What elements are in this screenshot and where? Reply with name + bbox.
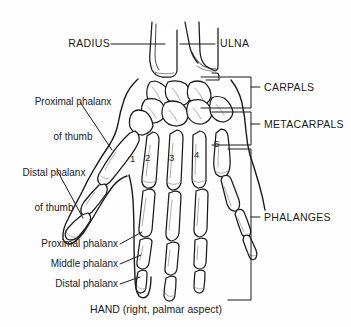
label-metacarpal-5: 5 (214, 138, 219, 149)
label-distal-phalanx-thumb: Distal phalanx of thumb (2, 143, 106, 237)
finger-4-phalanges (194, 189, 208, 293)
label-phalanges: PHALANGES (264, 211, 350, 223)
metacarpal-5 (214, 129, 230, 177)
label-metacarpals: METACARPALS (264, 118, 350, 130)
label-metacarpal-1: 1 (130, 153, 135, 164)
label-metacarpal-3: 3 (169, 152, 174, 163)
label-proximal-phalanx-thumb-line2: of thumb (18, 131, 128, 143)
figure-caption: HAND (right, palmar aspect) (46, 303, 266, 315)
label-ulna: ULNA (220, 37, 280, 49)
label-distal-phalanx-thumb-line1: Distal phalanx (2, 167, 106, 179)
label-distal-phalanx-thumb-line2: of thumb (2, 202, 106, 214)
ulna-bone (185, 22, 219, 80)
label-distal-phalanx: Distal phalanx (20, 278, 118, 290)
finger-3-phalanges (164, 191, 181, 301)
figure-root: RADIUS ULNA Proximal phalanx of thumb Di… (0, 0, 351, 327)
leader-proximal-phalanx (120, 232, 142, 244)
label-carpals: CARPALS (264, 81, 350, 93)
radius-bone (150, 22, 177, 77)
label-proximal-phalanx-thumb-line1: Proximal phalanx (18, 96, 128, 108)
label-radius: RADIUS (44, 37, 110, 49)
label-metacarpal-4: 4 (194, 149, 199, 160)
label-metacarpal-2: 2 (145, 152, 150, 163)
label-proximal-phalanx: Proximal phalanx (20, 238, 118, 250)
label-middle-phalanx: Middle phalanx (20, 258, 118, 270)
